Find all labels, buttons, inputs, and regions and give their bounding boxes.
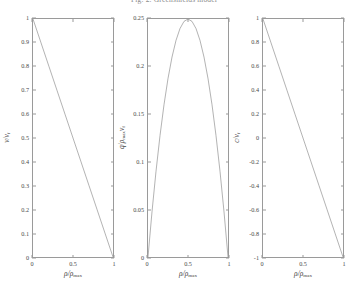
y-tick-mark	[341, 234, 345, 235]
subplot-flow-density: 00.050.10.150.20.2500.51 q/ρmaxvf ρ/ρmax	[147, 18, 229, 258]
x-tick-label: 1	[227, 258, 230, 267]
y-tick-label: 0.05	[133, 207, 147, 213]
y-tick-label: 0.5	[21, 135, 32, 141]
x-tick-mark	[188, 18, 189, 22]
x-tick-mark	[229, 255, 230, 259]
x-tick-mark	[262, 255, 263, 259]
y-tick-mark	[262, 18, 266, 19]
plot-line-flow-density	[148, 19, 228, 257]
y-tick-mark	[32, 42, 36, 43]
y-tick-mark	[111, 66, 115, 67]
y-tick-mark	[147, 162, 151, 163]
x-tick-mark	[73, 18, 74, 22]
x-tick-mark	[188, 255, 189, 259]
y-tick-mark	[262, 186, 266, 187]
y-tick-label: 0.2	[21, 207, 32, 213]
y-tick-mark	[226, 66, 230, 67]
y-tick-label: 0.4	[21, 159, 32, 165]
x-tick-label: 0.5	[299, 258, 307, 267]
y-tick-label: 0.6	[21, 111, 32, 117]
y-tick-mark	[147, 66, 151, 67]
x-tick-label: 0	[145, 258, 148, 267]
y-tick-mark	[341, 42, 345, 43]
x-tick-mark	[73, 255, 74, 259]
x-tick-mark	[32, 255, 33, 259]
figure-canvas: Fig. 2. Greenshields model 00.10.20.30.4…	[0, 0, 348, 294]
subplot-wavespeed-density: -1-0.8-0.6-0.4-0.200.20.40.60.8100.51 c/…	[262, 18, 344, 258]
x-tick-label: 1	[112, 258, 115, 267]
y-tick-mark	[32, 186, 36, 187]
x-tick-mark	[344, 18, 345, 22]
y-tick-mark	[341, 210, 345, 211]
y-tick-mark	[262, 114, 266, 115]
y-tick-mark	[32, 66, 36, 67]
y-tick-label: 0.9	[21, 39, 32, 45]
y-tick-mark	[262, 66, 266, 67]
y-tick-mark	[341, 186, 345, 187]
y-tick-mark	[147, 18, 151, 19]
y-tick-mark	[32, 162, 36, 163]
y-tick-label: -0.4	[249, 183, 262, 189]
x-tick-mark	[229, 18, 230, 22]
y-tick-label: 0.2	[136, 63, 147, 69]
y-tick-mark	[341, 90, 345, 91]
xlabel-speed-density: ρ/ρmax	[64, 269, 82, 278]
plot-line-wavespeed-density	[263, 19, 343, 257]
y-tick-label: -0.6	[249, 207, 262, 213]
y-tick-mark	[341, 114, 345, 115]
y-tick-mark	[111, 90, 115, 91]
y-tick-mark	[341, 66, 345, 67]
figure-title: Fig. 2. Greenshields model	[0, 0, 348, 4]
y-tick-label: 0.6	[251, 63, 262, 69]
y-tick-mark	[111, 234, 115, 235]
xlabel-flow-density: ρ/ρmax	[179, 269, 197, 278]
y-tick-mark	[111, 114, 115, 115]
y-tick-mark	[32, 210, 36, 211]
y-tick-mark	[111, 162, 115, 163]
y-tick-mark	[262, 90, 266, 91]
y-tick-label: 0.2	[251, 111, 262, 117]
y-tick-label: 0.4	[251, 87, 262, 93]
y-tick-label: 0.15	[133, 111, 147, 117]
y-tick-mark	[32, 90, 36, 91]
y-tick-mark	[262, 210, 266, 211]
y-tick-mark	[341, 162, 345, 163]
y-tick-label: 0.25	[133, 15, 147, 21]
y-tick-label: -0.2	[249, 159, 262, 165]
x-tick-mark	[303, 18, 304, 22]
x-tick-label: 0.5	[184, 258, 192, 267]
y-tick-mark	[262, 234, 266, 235]
y-tick-label: 0.3	[21, 183, 32, 189]
x-tick-label: 0	[30, 258, 33, 267]
axes-box-flow-density	[147, 18, 229, 258]
x-tick-mark	[32, 18, 33, 22]
x-tick-label: 0	[260, 258, 263, 267]
y-tick-mark	[32, 234, 36, 235]
y-tick-label: -0.8	[249, 231, 262, 237]
plot-line-speed-density	[33, 19, 113, 257]
y-tick-mark	[147, 114, 151, 115]
y-tick-mark	[341, 138, 345, 139]
y-tick-mark	[226, 162, 230, 163]
y-tick-label: 0.8	[251, 39, 262, 45]
y-tick-mark	[111, 42, 115, 43]
y-tick-label: 0.8	[21, 63, 32, 69]
axes-box-wavespeed-density	[262, 18, 344, 258]
y-tick-mark	[262, 162, 266, 163]
y-tick-mark	[147, 210, 151, 211]
y-tick-mark	[262, 138, 266, 139]
y-tick-mark	[111, 210, 115, 211]
x-tick-mark	[147, 255, 148, 259]
x-tick-label: 1	[342, 258, 345, 267]
x-tick-mark	[114, 18, 115, 22]
x-tick-label: 0.5	[69, 258, 77, 267]
y-tick-label: 0.7	[21, 87, 32, 93]
x-tick-mark	[262, 18, 263, 22]
y-tick-mark	[111, 186, 115, 187]
y-tick-mark	[262, 42, 266, 43]
x-tick-mark	[303, 255, 304, 259]
axes-box-speed-density	[32, 18, 114, 258]
xlabel-wavespeed-density: ρ/ρmax	[294, 269, 312, 278]
y-tick-mark	[32, 138, 36, 139]
y-tick-mark	[32, 114, 36, 115]
